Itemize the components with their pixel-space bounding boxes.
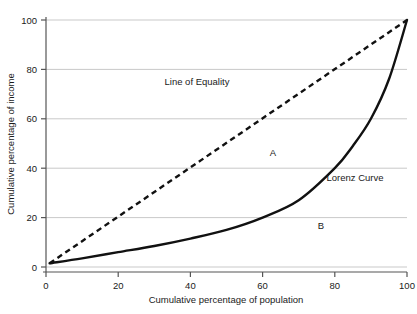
- data-series: [50, 20, 407, 263]
- x-axis-title: Cumulative percentage of population: [149, 294, 304, 305]
- y-axis-title: Cumulative percentage of income: [5, 73, 16, 215]
- area-a-label: A: [270, 147, 277, 158]
- y-tick-label-80: 80: [26, 64, 37, 75]
- chart-canvas: 100 80 60 40 20 0 0 20 40 60 80 100 Cumu…: [0, 0, 417, 314]
- line-of-equality-label: Line of Equality: [165, 76, 230, 87]
- y-tick-label-60: 60: [26, 113, 37, 124]
- x-tick-label-60: 60: [257, 280, 268, 291]
- area-b-label: B: [318, 220, 324, 231]
- line-of-equality-path: [50, 20, 407, 263]
- y-tick-label-20: 20: [26, 212, 37, 223]
- x-axis-ticks: [46, 272, 407, 277]
- x-tick-label-80: 80: [330, 280, 341, 291]
- y-tick-label-100: 100: [21, 15, 37, 26]
- lorenz-curve-label: Lorenz Curve: [326, 172, 383, 183]
- x-tick-label-40: 40: [185, 280, 196, 291]
- x-tick-label-0: 0: [43, 280, 48, 291]
- x-tick-label-20: 20: [113, 280, 124, 291]
- chart-annotations: Line of Equality Lorenz Curve A B: [165, 76, 384, 231]
- y-tick-label-0: 0: [32, 262, 37, 273]
- y-tick-labels: 100 80 60 40 20 0: [21, 15, 37, 273]
- y-tick-label-40: 40: [26, 163, 37, 174]
- x-tick-label-100: 100: [399, 280, 415, 291]
- x-tick-labels: 0 20 40 60 80 100: [43, 280, 415, 291]
- y-axis-ticks: [41, 20, 46, 267]
- lorenz-curve-path: [50, 20, 407, 263]
- lorenz-curve-chart: 100 80 60 40 20 0 0 20 40 60 80 100 Cumu…: [0, 0, 417, 314]
